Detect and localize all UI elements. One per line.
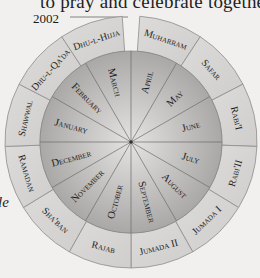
center-point bbox=[129, 140, 133, 144]
calendar-wheel: MuharramSafarRabi'IRabi'IIJumada IJumada… bbox=[0, 0, 260, 278]
year-label: 2002 bbox=[33, 11, 59, 27]
